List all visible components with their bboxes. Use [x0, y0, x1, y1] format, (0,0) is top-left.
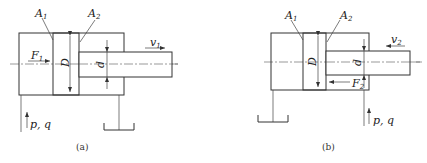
area2-label: A2 — [87, 7, 101, 21]
rod-label: d — [351, 59, 364, 66]
area1-leader — [291, 20, 303, 40]
force-label: F2 — [351, 77, 365, 91]
bore-label: D — [59, 58, 72, 68]
piston-rod — [79, 52, 172, 77]
area1-label: A1 — [284, 9, 297, 23]
area1-label: A1 — [34, 7, 47, 21]
velocity-label: v2 — [391, 33, 402, 47]
caption-a: (a) — [76, 142, 88, 152]
bore-label: D — [306, 57, 319, 67]
rod-label: d — [94, 61, 107, 68]
area2-label: A2 — [339, 9, 353, 23]
caption-b: (b) — [322, 142, 335, 152]
area2-leader — [327, 20, 340, 42]
supply-label: p, q — [30, 118, 51, 131]
piston-rod — [326, 51, 410, 75]
diagram-b: A1 A2 D d F2 v2 p, q (b) — [258, 9, 422, 152]
area2-leader — [80, 20, 95, 42]
diagram-a: A1 A2 D d F1 v1 p, q (a) — [10, 7, 178, 152]
area1-leader — [42, 18, 53, 40]
hydraulic-cylinder-figure: A1 A2 D d F1 v1 p, q (a) A1 A — [0, 0, 427, 163]
supply-label: p, q — [373, 114, 394, 127]
